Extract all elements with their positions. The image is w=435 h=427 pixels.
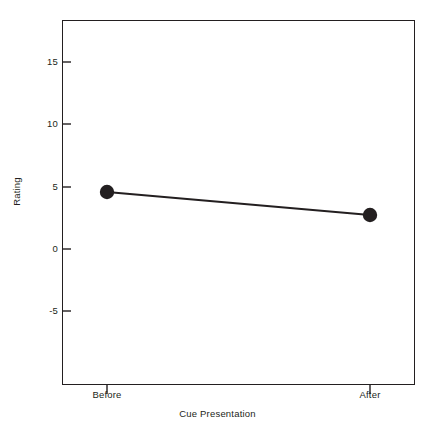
y-tick-label-0: 0 bbox=[18, 244, 58, 254]
series-line bbox=[107, 192, 370, 215]
plot-canvas bbox=[62, 20, 415, 385]
y-tick-label-minus5: -5 bbox=[18, 306, 58, 316]
x-tick-label-after: After bbox=[359, 389, 380, 400]
y-axis-title: Rating bbox=[11, 162, 22, 222]
data-point-marker bbox=[100, 185, 114, 199]
x-axis-tick-labels: Before After bbox=[0, 389, 435, 405]
data-point-marker bbox=[363, 208, 377, 222]
y-tick-label-5: 5 bbox=[18, 182, 58, 192]
y-tick-label-15: 15 bbox=[18, 57, 58, 67]
x-axis-title: Cue Presentation bbox=[0, 408, 435, 419]
line-chart-figure: 15 10 5 0 -5 Before After Cue Presentati… bbox=[0, 0, 435, 427]
y-tick-label-10: 10 bbox=[18, 119, 58, 129]
y-axis-ticks bbox=[62, 62, 71, 311]
x-tick-label-before: Before bbox=[92, 389, 121, 400]
